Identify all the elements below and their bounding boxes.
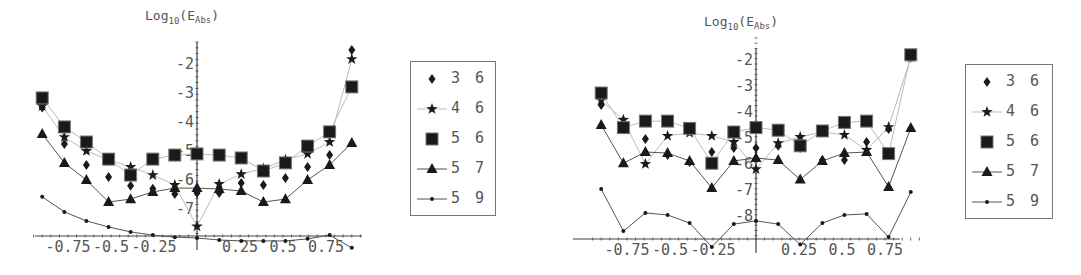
star-marker	[346, 53, 357, 64]
dot-marker	[776, 222, 780, 226]
y-tick-label: -2	[735, 51, 753, 69]
diamond-marker	[127, 181, 134, 191]
square-marker	[213, 149, 225, 161]
square-marker	[595, 87, 607, 99]
dot-marker	[842, 213, 846, 217]
chart-left: -0.75-0.5-0.250.250.50.75-2-3-4-5-6-7Log…	[0, 0, 400, 275]
triangle-marker	[427, 163, 438, 173]
dot-marker	[985, 200, 989, 204]
y-tick-label: -2	[176, 55, 194, 73]
y-axis-title: Log10(EAbs)	[704, 14, 778, 32]
dot-marker	[195, 236, 199, 240]
dot-marker	[84, 219, 88, 223]
y-tick-label: -6	[176, 171, 194, 189]
square-marker	[191, 148, 203, 160]
axes: -0.75-0.5-0.250.250.50.75-2-3-4-5-6-7Log…	[34, 8, 362, 256]
square-marker	[235, 152, 247, 164]
legend-label: 5 7	[451, 159, 487, 177]
dot-marker	[151, 233, 155, 237]
dot-marker	[306, 237, 310, 241]
x-tick-label: -0.25	[131, 238, 176, 256]
square-marker	[279, 157, 291, 169]
diamond-marker	[282, 173, 289, 183]
diamond-marker	[984, 77, 991, 87]
legend-item: 5 7	[966, 157, 1052, 187]
square-marker	[639, 115, 651, 127]
diamond-marker	[83, 160, 90, 170]
square-marker	[80, 136, 92, 148]
legend-label: 3 6	[1006, 72, 1042, 90]
legend-right: 3 6 4 6 5 6 5 7 5 9	[965, 64, 1053, 219]
triangle-marker	[302, 174, 313, 184]
dot-marker	[666, 213, 670, 217]
square-marker	[426, 133, 438, 145]
square-marker	[58, 121, 70, 133]
square-marker	[750, 122, 762, 134]
triangle-marker	[773, 154, 784, 164]
diamond-icon	[972, 72, 1002, 92]
x-tick-label: -0.25	[690, 241, 735, 259]
triangle-marker	[662, 147, 673, 157]
y-axis-title: Log10(EAbs)	[145, 8, 219, 26]
legend-item: 5 6	[411, 124, 495, 154]
triangle-marker	[596, 119, 607, 129]
square-marker	[169, 149, 181, 161]
dot-marker	[732, 222, 736, 226]
legend-label: 3 6	[451, 69, 487, 87]
diamond-marker	[105, 172, 112, 182]
star-marker	[147, 169, 158, 180]
dot-icon	[417, 189, 447, 209]
legend-item: 3 6	[966, 67, 1052, 97]
square-marker	[147, 153, 159, 165]
x-tick-label: 0.5	[828, 241, 855, 259]
y-tick-label: -4	[176, 113, 194, 131]
dot-marker	[107, 225, 111, 229]
legend-item: 5 9	[411, 184, 495, 214]
square-marker	[816, 125, 828, 137]
dot-marker	[217, 238, 221, 242]
triangle-marker	[839, 147, 850, 157]
dot-marker	[62, 210, 66, 214]
diamond-marker	[304, 162, 311, 172]
dot-marker	[328, 233, 332, 237]
x-tick-label: 0.75	[867, 241, 903, 259]
square-marker	[772, 124, 784, 136]
square-marker	[883, 148, 895, 160]
square-marker	[617, 122, 629, 134]
diamond-marker	[708, 147, 715, 157]
triangle-marker	[214, 183, 225, 193]
legend-label: 4 6	[1006, 102, 1042, 120]
legend-label: 5 9	[451, 189, 487, 207]
star-marker	[981, 106, 992, 117]
dot-marker	[129, 230, 133, 234]
diamond-icon	[417, 69, 447, 89]
diamond-marker	[642, 134, 649, 144]
triangle-marker	[883, 181, 894, 191]
square-marker	[36, 92, 48, 104]
chart-right: -0.75-0.5-0.250.250.50.75-2-3-4-5-6-7-8L…	[560, 0, 960, 275]
dot-marker	[173, 235, 177, 239]
dot-marker	[40, 195, 44, 199]
triangle-marker	[618, 157, 629, 167]
y-tick-label: -4	[735, 103, 753, 121]
dot-marker	[643, 211, 647, 215]
dot-marker	[710, 245, 714, 249]
star-icon	[417, 99, 447, 119]
y-tick-label: -3	[735, 77, 753, 95]
legend-label: 5 7	[1006, 162, 1042, 180]
legend-item: 5 7	[411, 154, 495, 184]
triangle-marker	[982, 166, 993, 176]
square-marker	[125, 169, 137, 181]
y-tick-label: -7	[735, 181, 753, 199]
x-tick-label: -0.75	[45, 238, 90, 256]
triangle-marker	[346, 137, 357, 147]
square-icon	[417, 129, 447, 149]
square-marker	[302, 140, 314, 152]
square-marker	[684, 122, 696, 134]
triangle-marker	[280, 193, 291, 203]
dot-marker	[621, 229, 625, 233]
diamond-marker	[429, 74, 436, 84]
dot-marker	[820, 221, 824, 225]
star-icon	[972, 102, 1002, 122]
square-marker	[981, 136, 993, 148]
